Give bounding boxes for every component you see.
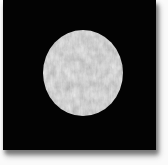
- photo-frame: [3, 0, 156, 150]
- disc-image: [3, 0, 156, 150]
- scan-area: [0, 0, 168, 165]
